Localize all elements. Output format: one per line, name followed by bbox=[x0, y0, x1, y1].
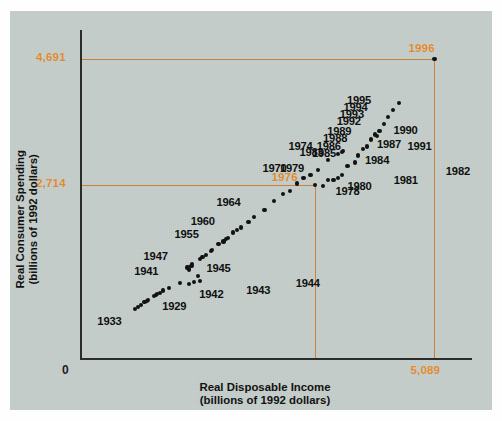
data-point-1952[interactable] bbox=[204, 253, 208, 257]
corner-label-1996: 1996 bbox=[408, 42, 434, 54]
data-point-1940[interactable] bbox=[167, 286, 171, 290]
y-axis-title-line2: (billions of 1992 dollars) bbox=[27, 154, 39, 284]
data-point-1996[interactable] bbox=[432, 57, 436, 61]
data-point-label-1942: 1942 bbox=[199, 288, 223, 300]
data-point-label-1945: 1945 bbox=[206, 262, 230, 274]
data-point-label-1960: 1960 bbox=[191, 215, 215, 227]
data-point-label-1987: 1987 bbox=[377, 138, 401, 150]
x-axis-title-line1: Real Disposable Income bbox=[199, 381, 330, 393]
data-point-1955[interactable] bbox=[216, 242, 220, 246]
data-point-1941[interactable] bbox=[178, 281, 182, 285]
data-point-1967[interactable] bbox=[288, 189, 292, 193]
data-point-label-1944: 1944 bbox=[296, 277, 320, 289]
data-point-1962[interactable] bbox=[246, 220, 250, 224]
x-axis-title-line2: (billions of 1992 dollars) bbox=[200, 394, 330, 406]
data-point-1979[interactable] bbox=[326, 178, 330, 182]
data-point-1994[interactable] bbox=[391, 108, 395, 112]
data-point-1942[interactable] bbox=[187, 282, 191, 286]
x-axis-title: Real Disposable Income (billions of 1992… bbox=[152, 381, 378, 408]
data-point-1976[interactable] bbox=[313, 183, 317, 187]
chart-figure: 4,6912,7145,0891976199601929193319411942… bbox=[0, 0, 502, 421]
y-axis-line bbox=[80, 30, 82, 358]
data-point-1958[interactable] bbox=[226, 236, 230, 240]
data-point-1965[interactable] bbox=[272, 199, 276, 203]
data-point-label-1979: 1979 bbox=[280, 162, 304, 174]
data-point-1943[interactable] bbox=[192, 280, 196, 284]
data-point-1949[interactable] bbox=[190, 262, 194, 266]
data-point-1935[interactable] bbox=[145, 299, 149, 303]
data-point-1982[interactable] bbox=[340, 173, 344, 177]
data-point-1984[interactable] bbox=[353, 160, 357, 164]
data-point-label-1943: 1943 bbox=[246, 284, 270, 296]
data-point-1990[interactable] bbox=[377, 129, 381, 133]
data-point-1966[interactable] bbox=[281, 192, 285, 196]
data-point-label-1980: 1980 bbox=[348, 180, 372, 192]
data-point-1975[interactable] bbox=[341, 149, 345, 153]
data-point-1964[interactable] bbox=[262, 208, 266, 212]
x-axis-line bbox=[80, 358, 472, 360]
y-axis-title-line1: Real Consumer Spending bbox=[14, 150, 26, 289]
data-point-1983[interactable] bbox=[345, 164, 349, 168]
data-point-label-1955: 1955 bbox=[175, 228, 199, 240]
data-point-label-1964: 1964 bbox=[217, 196, 241, 208]
data-point-1969[interactable] bbox=[301, 176, 305, 180]
data-point-1944[interactable] bbox=[198, 279, 202, 283]
data-point-1968[interactable] bbox=[295, 181, 299, 185]
y-tick-label-4691: 4,691 bbox=[36, 51, 66, 63]
reference-line-horizontal-4,691 bbox=[80, 59, 434, 60]
reference-line-horizontal-2,714 bbox=[80, 185, 315, 186]
data-point-1974[interactable] bbox=[336, 152, 340, 156]
data-point-1971[interactable] bbox=[316, 168, 320, 172]
data-point-1954[interactable] bbox=[210, 248, 214, 252]
data-point-1980[interactable] bbox=[331, 178, 335, 182]
data-point-1988[interactable] bbox=[369, 137, 373, 141]
reference-line-vertical-5,089 bbox=[434, 59, 435, 358]
origin-label: 0 bbox=[62, 363, 69, 377]
data-point-1938[interactable] bbox=[155, 292, 159, 296]
x-tick-label-5089: 5,089 bbox=[410, 364, 440, 376]
data-point-1939[interactable] bbox=[161, 288, 165, 292]
data-point-1934[interactable] bbox=[139, 303, 143, 307]
data-point-1961[interactable] bbox=[239, 225, 243, 229]
data-point-1985[interactable] bbox=[356, 153, 360, 157]
data-point-1963[interactable] bbox=[252, 215, 256, 219]
data-point-1945[interactable] bbox=[196, 274, 200, 278]
data-point-label-1941: 1941 bbox=[134, 265, 158, 277]
data-point-1981[interactable] bbox=[336, 176, 340, 180]
data-point-label-1947: 1947 bbox=[144, 250, 168, 262]
data-point-1992[interactable] bbox=[382, 122, 386, 126]
data-point-1970[interactable] bbox=[308, 173, 312, 177]
data-point-label-1984: 1984 bbox=[365, 154, 389, 166]
data-point-1987[interactable] bbox=[365, 144, 369, 148]
data-point-label-1933: 1933 bbox=[97, 315, 121, 327]
plot-area: 4,6912,7145,0891976199601929193319411942… bbox=[0, 0, 502, 421]
y-axis-title: Real Consumer Spending (billions of 1992… bbox=[14, 150, 41, 289]
data-point-label-1981: 1981 bbox=[394, 174, 418, 186]
data-point-1995[interactable] bbox=[397, 101, 401, 105]
data-point-1978[interactable] bbox=[321, 184, 325, 188]
reference-line-vertical-1976 bbox=[315, 185, 316, 358]
data-point-1993[interactable] bbox=[386, 115, 390, 119]
data-point-label-1995: 1995 bbox=[347, 94, 371, 106]
data-point-label-1990: 1990 bbox=[393, 124, 417, 136]
data-point-label-1991: 1991 bbox=[407, 140, 431, 152]
data-point-label-1929: 1929 bbox=[162, 300, 186, 312]
data-point-label-1982: 1982 bbox=[446, 165, 470, 177]
data-point-1933[interactable] bbox=[133, 307, 137, 311]
